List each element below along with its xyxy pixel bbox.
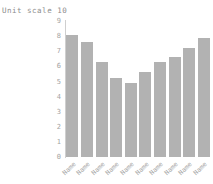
x-tick-label: Name	[163, 161, 179, 177]
y-tick-label: 5	[0, 78, 61, 86]
x-tick-label: Name	[178, 161, 194, 177]
y-tick-label: 1	[0, 138, 61, 146]
y-tick-label: 9	[0, 17, 61, 25]
x-tick-label: Name	[149, 161, 165, 177]
x-tick-label: Name	[105, 161, 121, 177]
x-tick-label: Name	[193, 161, 209, 177]
bar	[198, 38, 210, 157]
y-tick-label: 8	[0, 32, 61, 40]
bar	[96, 62, 108, 157]
y-tick-label: 3	[0, 108, 61, 116]
bar	[169, 57, 181, 157]
x-tick-label: Name	[90, 161, 106, 177]
y-tick-label: 6	[0, 62, 61, 70]
bar-chart: Unit scale 10 0123456789 NameNameNameNam…	[0, 0, 213, 184]
bar	[154, 62, 166, 157]
y-tick-label: 2	[0, 123, 61, 131]
bar	[81, 42, 93, 157]
bar	[139, 72, 151, 157]
x-tick-label: Name	[120, 161, 136, 177]
bar	[183, 48, 195, 157]
x-tick-label: Name	[134, 161, 150, 177]
x-tick-label: Name	[76, 161, 92, 177]
bar	[110, 78, 122, 157]
y-tick-label: 7	[0, 47, 61, 55]
x-tick-label: Name	[61, 161, 77, 177]
chart-title: Unit scale 10	[2, 6, 67, 15]
y-tick-label: 4	[0, 93, 61, 101]
bar	[125, 83, 137, 157]
bar	[66, 35, 78, 157]
y-tick-label: 0	[0, 153, 61, 161]
